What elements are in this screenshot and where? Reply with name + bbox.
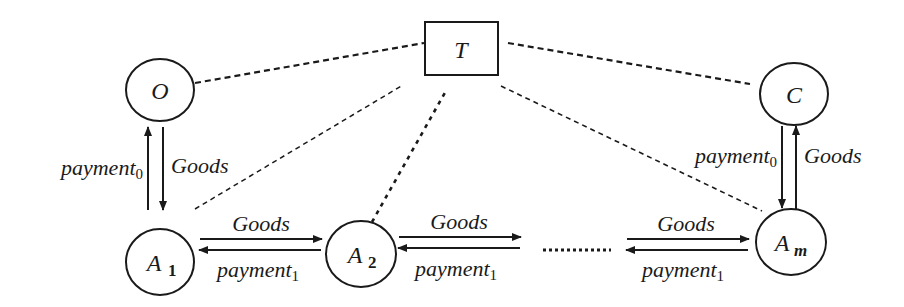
label-c-am-payment-sub: 0 <box>770 154 778 170</box>
link-t-o <box>195 43 424 83</box>
node-label-o: O <box>151 78 168 104</box>
label-prev-am-payment-sub: 1 <box>717 268 725 284</box>
label-o-a1-payment: payment <box>59 155 136 180</box>
svg-text:A: A <box>773 230 790 256</box>
node-customer: C <box>760 63 828 125</box>
label-a1-a2-goods: Goods <box>232 211 289 236</box>
link-t-a1 <box>195 85 403 209</box>
node-sub-am: m <box>794 241 807 260</box>
node-label-a2: A <box>346 242 363 268</box>
node-label-c: C <box>786 82 803 108</box>
svg-text:A: A <box>145 250 162 276</box>
node-trusted-party: T <box>425 22 498 75</box>
label-prev-am-payment: payment <box>640 257 717 282</box>
node-sub-a1: 1 <box>168 261 177 280</box>
svg-text:payment0: payment0 <box>693 143 777 170</box>
link-t-a2 <box>372 89 447 222</box>
supply-chain-diagram: T O C A 1 A 2 A m payment0 Goods payment… <box>0 0 904 307</box>
label-c-am-goods: Goods <box>804 143 861 168</box>
node-label-t: T <box>454 37 469 63</box>
label-a2-next-goods: Goods <box>430 209 487 234</box>
label-prev-am-goods: Goods <box>657 211 714 236</box>
label-a2-next-payment: payment <box>413 256 490 281</box>
label-o-a1-goods: Goods <box>171 153 228 178</box>
node-label-a1: A <box>145 250 162 276</box>
node-agent-1: A 1 <box>126 229 194 295</box>
link-t-c <box>508 43 750 84</box>
node-agent-m: A m <box>756 209 826 275</box>
edges-a1-a2 <box>199 239 322 250</box>
svg-text:payment0: payment0 <box>59 155 143 182</box>
edges-c-am <box>782 126 796 210</box>
label-a2-next-payment-sub: 1 <box>490 267 498 283</box>
node-sub-a2: 2 <box>368 253 377 272</box>
label-a1-a2-payment: payment <box>215 257 292 282</box>
node-agent-2: A 2 <box>326 221 396 287</box>
edges-a2-next <box>398 237 521 248</box>
svg-text:payment1: payment1 <box>640 257 724 284</box>
node-label-am: A <box>773 230 790 256</box>
svg-text:payment1: payment1 <box>215 257 299 284</box>
node-origin: O <box>126 59 194 121</box>
label-a1-a2-payment-sub: 1 <box>292 268 300 284</box>
svg-text:payment1: payment1 <box>413 256 497 283</box>
label-o-a1-payment-sub: 0 <box>136 166 144 182</box>
edges-o-a1 <box>148 127 163 210</box>
edges-prev-am <box>626 239 749 250</box>
label-c-am-payment: payment <box>693 143 770 168</box>
svg-text:A: A <box>346 242 363 268</box>
